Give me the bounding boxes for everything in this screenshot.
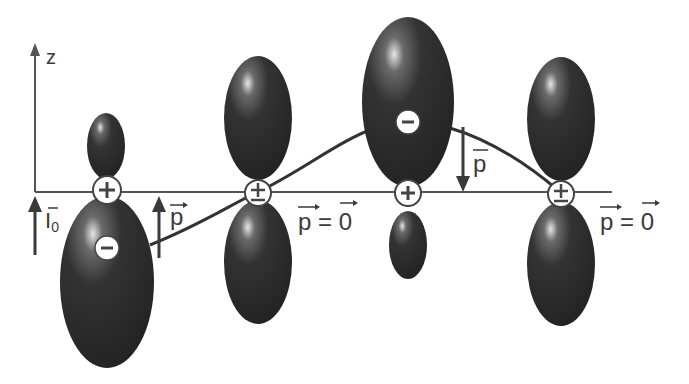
lower-lobe <box>60 196 154 368</box>
lower-lobe <box>527 202 595 326</box>
initial-impulse-arrow: I0 <box>28 196 59 255</box>
upper-lobe <box>527 57 595 181</box>
momentum-up-label: p <box>170 203 183 230</box>
wave-curve <box>150 128 560 245</box>
svg-text:p = 0: p = 0 <box>298 208 352 235</box>
upper-lobe <box>87 113 125 179</box>
upper-lobe <box>224 56 292 180</box>
momentum-zero-label-2: p = 0 <box>600 200 660 235</box>
momentum-zero-label-1: p = 0 <box>298 200 358 235</box>
diagram-canvas: z I0 p <box>0 0 689 384</box>
momentum-down-label: p <box>473 150 486 177</box>
z-axis-label: z <box>46 46 56 68</box>
lobe-sign-minus <box>95 236 119 260</box>
orbital-2 <box>224 56 292 324</box>
lower-lobe <box>389 211 427 279</box>
svg-text:p = 0: p = 0 <box>600 208 654 235</box>
nucleus-plus-minus <box>548 181 574 207</box>
momentum-up-arrow: p <box>152 196 188 258</box>
lobe-sign-minus <box>396 110 420 134</box>
nucleus-plus <box>395 180 421 206</box>
upper-lobe <box>362 17 454 187</box>
z-axis: z <box>30 43 56 192</box>
nucleus-plus <box>93 176 121 204</box>
nucleus-plus-minus <box>245 180 271 206</box>
impulse-label: I0 <box>45 208 59 235</box>
orbital-3 <box>362 17 454 279</box>
lower-lobe <box>224 200 292 324</box>
orbital-1 <box>60 113 154 368</box>
